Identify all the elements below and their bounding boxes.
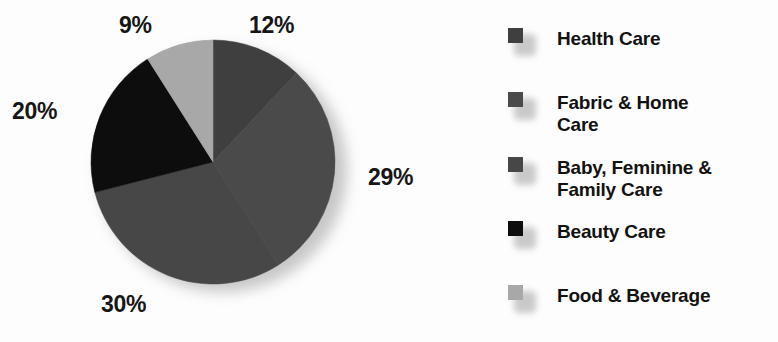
legend-swatch-wrapper <box>508 28 538 56</box>
legend-swatch-wrapper <box>508 285 538 313</box>
legend-label: Health Care <box>538 28 660 50</box>
slice-value-label-baby-family-care: 30% <box>101 293 146 316</box>
slice-value-label-food-beverage: 9% <box>119 14 152 37</box>
legend-swatch-wrapper <box>508 92 538 120</box>
legend-item-baby-feminine-family-care: Baby, Feminine & Family Care <box>508 157 712 201</box>
pie-slices-group <box>91 40 335 284</box>
slice-value-label-health-care: 12% <box>249 14 294 37</box>
legend-swatch-icon <box>508 221 523 236</box>
legend-swatch-wrapper <box>508 221 538 249</box>
chart-legend: Health Care Fabric & Home Care Baby, Fem… <box>508 0 778 342</box>
legend-swatch-wrapper <box>508 157 538 185</box>
legend-label: Food & Beverage <box>538 285 710 307</box>
pie-chart-figure: 12% 9% 20% 29% 30% Health Care Fabric & … <box>0 0 778 342</box>
legend-label: Baby, Feminine & Family Care <box>538 157 712 201</box>
legend-label: Fabric & Home Care <box>538 92 689 136</box>
legend-swatch-icon <box>508 92 523 107</box>
legend-label: Beauty Care <box>538 221 666 243</box>
legend-swatch-icon <box>508 285 523 300</box>
legend-swatch-icon <box>508 28 523 43</box>
slice-value-label-beauty-care: 20% <box>12 100 57 123</box>
slice-value-label-fabric-home-care: 29% <box>368 166 413 189</box>
legend-item-health-care: Health Care <box>508 28 660 56</box>
pie-chart-area: 12% 9% 20% 29% 30% <box>0 0 470 342</box>
legend-item-food-beverage: Food & Beverage <box>508 285 710 313</box>
legend-item-fabric-home-care: Fabric & Home Care <box>508 92 689 136</box>
legend-item-beauty-care: Beauty Care <box>508 221 666 249</box>
legend-swatch-icon <box>508 157 523 172</box>
